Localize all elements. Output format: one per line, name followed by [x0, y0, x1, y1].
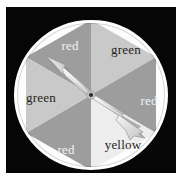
- spinner-hub-pin: [89, 93, 93, 97]
- wheel-graphic: [6, 7, 176, 173]
- photo-frame: red green red yellow red green: [6, 7, 176, 173]
- spinner-wheel[interactable]: red green red yellow red green: [6, 7, 176, 173]
- spinner-image: red green red yellow red green: [0, 0, 184, 185]
